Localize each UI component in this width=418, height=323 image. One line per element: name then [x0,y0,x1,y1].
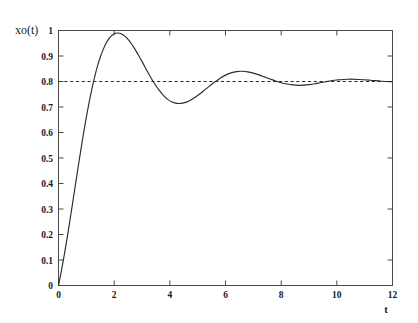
x-tick-label: 12 [388,290,398,300]
step-response-chart: 0 0.1 0.2 0.3 0.4 0.5 0.6 0.7 0.8 0.9 1 … [0,0,418,323]
y-tick-label: 0.8 [41,77,53,87]
y-axis-title: xo(t) [15,23,38,37]
figure-background [0,0,418,323]
x-tick-label: 2 [112,290,117,300]
y-tick-label: 0.5 [41,154,53,164]
x-tick-label: 10 [332,290,342,300]
x-tick-label: 0 [56,290,61,300]
y-tick-label: 0.2 [41,230,53,240]
x-axis-title: t [384,304,388,315]
y-tick-label: 0.1 [41,256,53,266]
y-tick-label: 0.3 [41,205,53,215]
x-tick-label: 8 [279,290,284,300]
y-tick-label: 0.6 [41,128,53,138]
y-tick-label: 0.4 [41,179,53,189]
y-tick-label: 0.9 [41,52,53,62]
x-tick-label: 6 [223,290,228,300]
y-tick-label: 1 [48,26,53,36]
x-tick-label: 4 [167,290,172,300]
y-tick-label: 0.7 [41,103,53,113]
y-tick-label: 0 [48,281,53,291]
